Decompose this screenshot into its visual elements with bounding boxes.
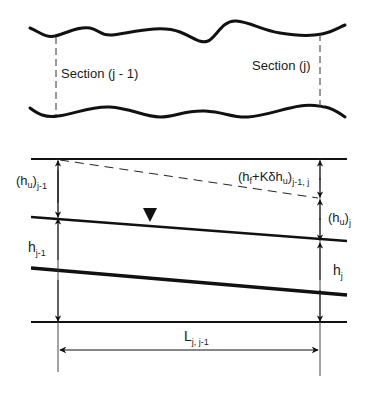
- bottom-bank-line: [30, 105, 345, 117]
- top-bank-line: [30, 21, 345, 42]
- h-right-label: hj: [333, 262, 343, 281]
- profile-view: (hu)j-1 (hf+Kδhu)j-1, j (hu)j hj-1 hj Lj…: [16, 159, 351, 376]
- channel-bed-line: [31, 268, 347, 295]
- hu-right-label: (hu)j: [328, 210, 351, 228]
- section-left-label: Section (j - 1): [61, 66, 138, 81]
- plan-view: Section (j - 1) Section (j): [30, 21, 345, 117]
- water-surface-line: [31, 217, 347, 241]
- section-right-label: Section (j): [252, 58, 311, 73]
- hu-left-label: (hu)j-1: [16, 173, 47, 191]
- h-left-label: hj-1: [28, 239, 46, 258]
- length-label: Lj, j-1: [184, 328, 209, 347]
- channel-reach-diagram: Section (j - 1) Section (j) (hu)j-1 (hf+…: [0, 0, 369, 393]
- water-surface-icon: [143, 208, 157, 222]
- hf-label: (hf+Kδhu)j-1, j: [238, 169, 309, 187]
